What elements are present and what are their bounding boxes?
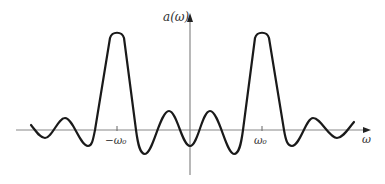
x-axis-label: ω	[362, 133, 371, 146]
amplitude-curve	[31, 33, 354, 154]
tick-label-neg-omega0: −ω₀	[105, 134, 127, 146]
y-axis-label: a(ω)	[163, 10, 190, 24]
amplitude-response-diagram: a(ω) ω −ω₀ ω₀	[0, 0, 385, 184]
diagram-canvas: a(ω) ω −ω₀ ω₀	[0, 0, 385, 184]
tick-label-pos-omega0: ω₀	[254, 134, 268, 146]
